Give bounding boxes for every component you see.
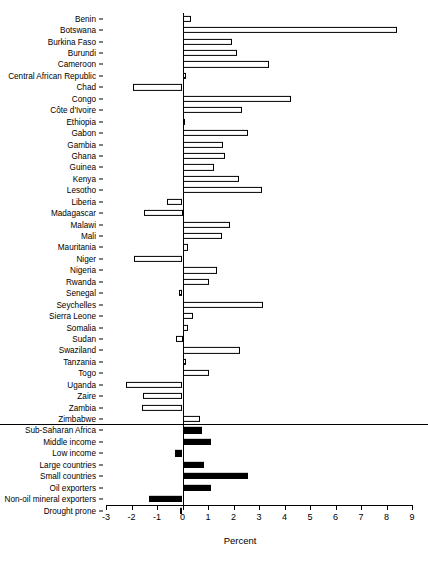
category-tick-mark (99, 304, 103, 305)
x-axis-tick-label: 4 (282, 512, 287, 523)
bar-row (106, 310, 412, 321)
category-tick-mark (99, 396, 103, 397)
category-label: Zambia (69, 403, 96, 412)
category-tick-mark (99, 213, 103, 214)
category-label: Botswana (60, 26, 96, 35)
bar-row (106, 207, 412, 218)
x-axis-tick-labels: -3-2-10123456789 (106, 512, 412, 524)
category-label-row: Ethiopia (0, 116, 104, 127)
x-axis-tick (132, 505, 133, 510)
bar (126, 382, 182, 388)
category-tick-mark (99, 293, 103, 294)
category-label-row: Zambia (0, 402, 104, 413)
category-label-row: Senegal (0, 288, 104, 299)
bar (183, 222, 230, 228)
x-axis-tick (234, 505, 235, 510)
bar (183, 302, 263, 308)
x-axis-tick (336, 505, 337, 510)
category-label: Gambia (67, 140, 96, 149)
category-label-row: Gabon (0, 127, 104, 138)
bar-row (106, 425, 412, 436)
bar (183, 187, 262, 193)
bar (176, 336, 182, 342)
category-label: Nigeria (70, 266, 96, 275)
category-label-row: Cameroon (0, 59, 104, 70)
category-label-row: Oil exporters (0, 482, 104, 493)
category-tick-mark (99, 167, 103, 168)
x-axis-tick-label: 2 (231, 512, 236, 523)
bar (149, 496, 182, 502)
category-label-row: Zaire (0, 390, 104, 401)
bar (183, 96, 291, 102)
category-tick-mark (99, 316, 103, 317)
category-label-row: Low income (0, 448, 104, 459)
category-label: Mali (81, 232, 96, 241)
bar (183, 485, 211, 491)
category-label: Guinea (70, 163, 96, 172)
x-axis-tick (361, 505, 362, 510)
category-tick-mark (99, 18, 103, 19)
bar-row (106, 36, 412, 47)
bar (183, 359, 187, 365)
category-tick-mark (99, 247, 103, 248)
category-tick-mark (99, 224, 103, 225)
bar (183, 416, 201, 422)
category-label: Senegal (66, 289, 96, 298)
category-label-row: Togo (0, 368, 104, 379)
category-label: Chad (76, 83, 96, 92)
category-label-row: Tanzania (0, 356, 104, 367)
bar-row (106, 265, 412, 276)
category-label-row: Malawi (0, 219, 104, 230)
category-tick-mark (99, 98, 103, 99)
category-label: Côte d'Ivoire (50, 106, 96, 115)
bar (183, 233, 223, 239)
category-label: Swaziland (59, 346, 96, 355)
bar-row (106, 93, 412, 104)
category-label: Tanzania (63, 357, 96, 366)
bar-row (106, 379, 412, 390)
category-tick-mark (99, 236, 103, 237)
category-tick-mark (99, 258, 103, 259)
bar (183, 427, 202, 433)
category-tick-mark (99, 190, 103, 191)
x-axis-tick (208, 505, 209, 510)
category-tick-mark (99, 144, 103, 145)
bar-row (106, 127, 412, 138)
bar-row (106, 448, 412, 459)
x-axis-tick-label: 1 (205, 512, 210, 523)
category-tick-mark (99, 41, 103, 42)
category-label-row: Liberia (0, 196, 104, 207)
category-tick-mark (99, 476, 103, 477)
bar (183, 324, 188, 330)
bar (144, 210, 182, 216)
category-label: Congo (72, 94, 96, 103)
bar (183, 119, 185, 125)
category-label-row: Mauritania (0, 242, 104, 253)
bar (183, 439, 211, 445)
category-tick-mark (99, 350, 103, 351)
category-tick-mark (99, 430, 103, 431)
bar (143, 393, 183, 399)
category-tick-mark (99, 110, 103, 111)
bar (183, 39, 233, 45)
category-label-row: Niger (0, 253, 104, 264)
category-label-row: Central African Republic (0, 70, 104, 81)
bar (183, 27, 397, 33)
category-label-row: Middle income (0, 436, 104, 447)
x-axis-title: Percent (0, 535, 428, 546)
x-axis-tick-label: 7 (358, 512, 363, 523)
category-label-row: Sudan (0, 333, 104, 344)
category-label: Benin (75, 14, 96, 23)
category-tick-mark (99, 30, 103, 31)
x-axis-tick-label: -1 (153, 512, 161, 523)
category-label-row: Guinea (0, 162, 104, 173)
bar-row (106, 493, 412, 504)
category-label: Malawi (71, 220, 96, 229)
bar (183, 130, 248, 136)
x-axis-tick-label: 3 (256, 512, 261, 523)
x-axis-tick (259, 505, 260, 510)
category-label-row: Somalia (0, 322, 104, 333)
x-axis-tick (412, 505, 413, 510)
x-axis-ticks (106, 505, 412, 511)
category-tick-mark (99, 338, 103, 339)
